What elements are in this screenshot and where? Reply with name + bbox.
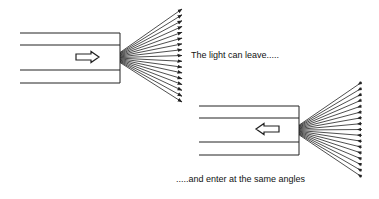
light-ray	[120, 62, 182, 96]
ray-arrowhead-icon	[357, 128, 361, 132]
ray-arrowhead-icon	[357, 104, 361, 107]
light-ray	[120, 15, 182, 53]
caption-light-leaves: The light can leave.....	[191, 51, 279, 60]
light-ray	[299, 135, 362, 177]
light-ray	[299, 130, 362, 131]
light-ray	[120, 32, 182, 55]
fiber-optic-diagram	[0, 0, 379, 199]
output-waveguide	[20, 9, 182, 102]
light-ray	[120, 21, 182, 54]
ray-arrowhead-icon	[358, 81, 362, 85]
light-ray	[120, 63, 182, 103]
light-ray	[299, 133, 362, 159]
caption-light-enters: .....and enter at the same angles	[176, 175, 305, 184]
input-waveguide	[199, 81, 362, 178]
light-ray	[299, 132, 362, 153]
light-ray	[299, 134, 362, 166]
ray-arrowhead-icon	[358, 174, 362, 178]
arrow-right-icon	[76, 52, 99, 63]
light-ray	[299, 94, 362, 127]
ray-arrowhead-icon	[357, 116, 361, 120]
ray-arrowhead-icon	[357, 139, 361, 143]
ray-arrowhead-icon	[357, 134, 361, 138]
ray-arrowhead-icon	[357, 151, 361, 154]
ray-arrowhead-icon	[357, 145, 361, 148]
light-ray	[120, 61, 182, 85]
arrow-left-icon	[256, 124, 279, 135]
